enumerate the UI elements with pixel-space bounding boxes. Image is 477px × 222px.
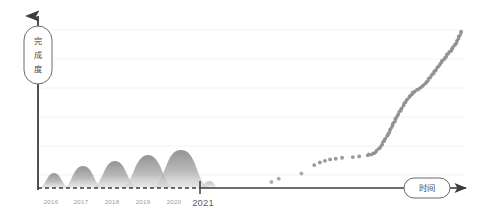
progress-dot [269,180,273,184]
progress-dot [340,156,344,160]
x-tick-label-2017: 2017 [74,198,89,205]
progress-dot [323,159,327,163]
progress-over-time-chart: 完 成 度 时间 2016 2017 2018 2019 2020 2021 [0,0,477,222]
progress-dot [334,157,338,161]
x-tick-labels: 2016 2017 2018 2019 2020 2021 [44,197,214,208]
progress-dots [269,30,463,184]
progress-dot [277,177,281,181]
progress-dot [459,30,463,34]
progress-dot [351,155,355,159]
x-tick-label-2019: 2019 [136,198,151,205]
x-tick-label-2020: 2020 [167,198,182,205]
x-axis-label-text: 时间 [419,183,435,193]
y-axis-label-char-2: 度 [34,64,42,74]
y-axis-label-char-0: 完 [34,36,42,46]
progress-dot [328,158,332,162]
chart-canvas: 完 成 度 时间 2016 2017 2018 2019 2020 2021 [0,0,477,222]
gridlines [38,30,465,175]
x-tick-label-2021: 2021 [192,197,214,208]
y-axis-label: 完 成 度 [24,26,52,84]
annual-bumps-area [38,150,219,188]
progress-dot [312,163,316,167]
progress-dot [357,154,361,158]
x-tick-label-2016: 2016 [44,198,59,205]
x-tick-label-2018: 2018 [105,198,120,205]
progress-dot [299,172,303,176]
progress-dot [318,161,322,165]
x-axis-label: 时间 [404,178,450,198]
y-axis-label-char-1: 成 [34,50,42,60]
